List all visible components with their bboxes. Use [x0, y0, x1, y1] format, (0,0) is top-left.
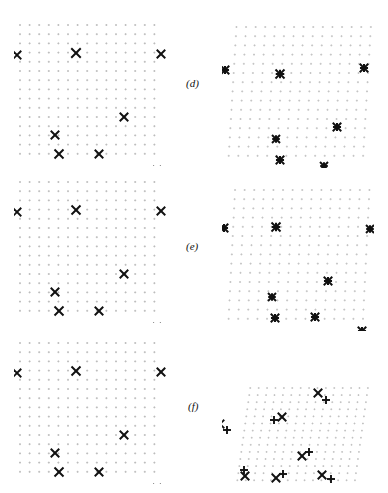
panel-f-left [14, 336, 166, 484]
control-point-plus[interactable] [305, 448, 313, 456]
control-point-x[interactable] [241, 472, 250, 481]
control-point-x[interactable] [222, 420, 224, 429]
control-point-x[interactable] [278, 413, 287, 422]
control-point-plus[interactable] [322, 396, 330, 404]
control-point-x[interactable] [272, 474, 281, 483]
lattice-dots [236, 387, 368, 481]
control-point-x[interactable] [157, 368, 166, 377]
control-point-x[interactable] [55, 468, 64, 477]
control-point-x[interactable] [120, 431, 129, 440]
control-point-plus[interactable] [327, 475, 335, 483]
control-point-x[interactable] [72, 367, 81, 376]
control-point-plus[interactable] [279, 470, 287, 478]
panel-f-right [222, 378, 374, 490]
control-point-x[interactable] [14, 369, 21, 378]
panel-f-left-control-points [14, 367, 165, 485]
figure-root: (d)(e)(f) [0, 0, 388, 493]
panel-f-right-control-points [222, 389, 335, 483]
control-point-x[interactable] [298, 452, 307, 461]
control-point-x[interactable] [318, 471, 327, 480]
row-f: (f) [0, 0, 388, 493]
lattice-dots [19, 342, 155, 473]
panel-f-left-canvas [14, 336, 166, 484]
subfigure-label-f: (f) [188, 400, 198, 412]
control-point-x[interactable] [314, 389, 323, 398]
panel-f-right-canvas [222, 378, 374, 490]
